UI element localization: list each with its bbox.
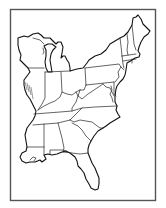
- map-container: [0, 0, 166, 208]
- eastern-us-outline-map: [0, 0, 166, 208]
- eastern-us-landmass: [18, 15, 150, 190]
